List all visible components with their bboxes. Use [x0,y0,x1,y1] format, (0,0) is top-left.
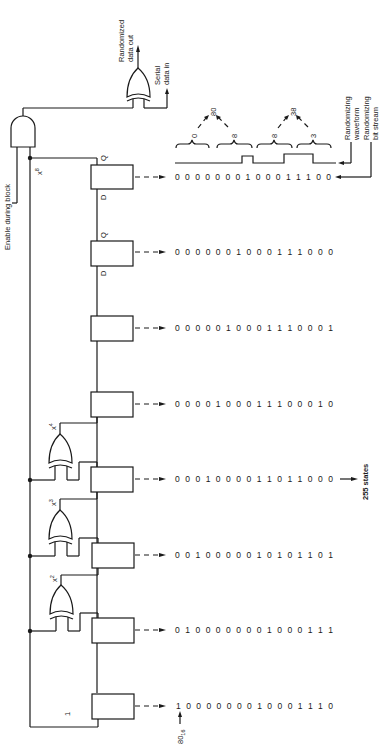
bit-row-stage-7: 0 0 0 0 0 0 1 0 0 0 1 1 1 0 0 0 [175,247,333,257]
seed-arrow [178,711,182,724]
bit-row-stage-4: 0 0 0 1 0 0 0 0 1 1 0 1 1 0 0 0 [175,474,333,484]
xor-gate-x3 [28,492,98,558]
svg-text:8: 8 [230,134,239,138]
svg-text:3: 3 [309,134,318,138]
bitstream-pointer [335,142,371,179]
register-stage-6 [91,316,133,341]
bit-row-stage-8: 0 0 0 0 0 0 0 1 0 0 0 1 1 1 0 0 [175,172,331,182]
register-stage-3 [92,543,134,568]
register-stage-2 [92,618,134,643]
svg-text:0: 0 [190,134,199,138]
bit-sequence-rows: 0 0 0 0 0 0 0 1 0 0 0 1 1 1 0 0 0 0 0 0 … [175,172,333,711]
tap-x2-label: x2 [49,575,59,582]
svg-text:Q: Q [99,232,108,238]
randomizing-waveform-label: Randomizingwaveform [343,96,361,141]
bit-row-stage-1: 1 0 0 0 0 0 0 0 1 0 0 0 1 1 1 0 [176,701,333,711]
enable-during-block-label: Enable during block [3,184,12,250]
register-stage-1 [92,694,134,719]
nibble-values: 0 8 8 3 [190,134,318,138]
bit-row-stage-2: 0 1 0 0 0 0 0 0 0 1 0 0 0 1 1 1 [175,625,333,635]
register-output-arrows [135,175,166,708]
randomizing-bit-stream-label: Randomizingbit stream [362,96,380,140]
bit-row-stage-5: 0 0 0 0 1 0 0 0 1 1 1 0 0 0 1 0 [175,399,333,409]
tap-x8-label: x8 [34,168,44,175]
waveform-pointer [338,142,351,165]
bit-row-stage-3: 0 0 1 0 0 0 0 0 1 0 1 0 1 1 0 1 [175,550,333,560]
states-label: 255 states [361,464,370,500]
svg-text:80: 80 [209,108,218,116]
randomized-data-out-label: Randomizeddata out [117,20,135,62]
svg-text:D: D [99,194,108,200]
x8-tap [28,156,97,165]
seed-label: 8016 [176,730,186,744]
svg-text:Q: Q [99,155,108,161]
randomizer-circuit-diagram: 1 x8 Enable during block Randomizeddata … [0,0,386,744]
svg-text:D: D [99,270,108,276]
register-stage-4 [91,467,133,492]
feedback-bus [30,147,98,727]
register-stage-5 [91,392,133,417]
tap-x4-label: x4 [48,423,58,430]
bit-row-stage-6: 0 0 0 0 0 1 0 0 0 1 1 1 0 0 0 1 [175,323,333,333]
tap-x3-label: x3 [48,499,58,506]
xor-gate-x2 [28,568,98,633]
byte-braces [176,140,331,148]
feedback-one-label: 1 [63,712,72,716]
xor-gate-x4 [28,417,97,482]
states-arrow [340,477,358,481]
byte-values: 80 38 [209,108,298,116]
serial-data-in-label: Serialdata in [153,62,171,85]
svg-text:38: 38 [289,108,298,116]
randomizing-waveform [175,154,336,163]
svg-text:8: 8 [270,134,279,138]
